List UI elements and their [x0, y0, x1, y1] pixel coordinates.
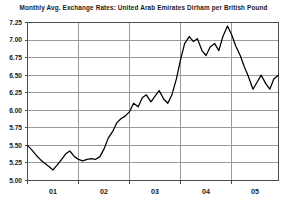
x-axis-tick-labels: 0102030405 — [49, 187, 259, 196]
y-tick-label: 6.00 — [9, 107, 22, 114]
x-tick-label: 01 — [49, 187, 57, 196]
x-tick-label: 02 — [100, 187, 108, 196]
y-tick-label: 6.50 — [9, 72, 22, 79]
y-tick-label: 5.50 — [9, 142, 22, 149]
y-tick-label: 6.75 — [9, 54, 22, 61]
y-tick-label: 7.25 — [9, 19, 22, 26]
y-tick-label: 7.00 — [9, 36, 22, 43]
chart-screenshot: Monthly Avg. Exchange Rates: United Arab… — [0, 0, 287, 201]
y-tick-label: 5.25 — [9, 159, 22, 166]
chart-svg: 7.257.006.756.506.256.005.755.505.255.00… — [0, 0, 287, 201]
y-axis-tick-labels: 7.257.006.756.506.256.005.755.505.255.00 — [9, 19, 22, 184]
gridlines — [28, 23, 279, 181]
y-tick-label: 5.00 — [9, 177, 22, 184]
x-tick-label: 03 — [151, 187, 159, 196]
y-tick-label: 6.25 — [9, 89, 22, 96]
plot-area: 7.257.006.756.506.256.005.755.505.255.00… — [0, 0, 287, 201]
x-tick-label: 04 — [202, 187, 210, 196]
x-tick-label: 05 — [251, 187, 259, 196]
data-series-line — [28, 26, 279, 170]
y-tick-label: 5.75 — [9, 124, 22, 131]
axis-frame — [25, 23, 279, 184]
